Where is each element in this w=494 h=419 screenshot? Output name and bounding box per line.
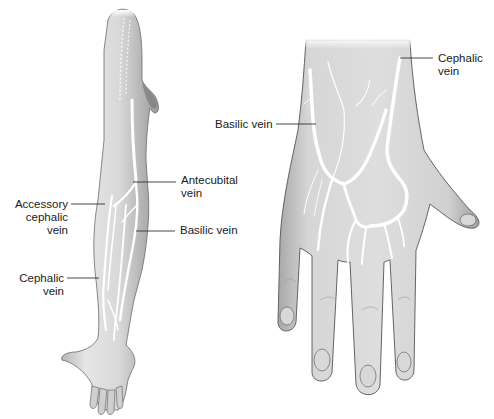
vein-diagram: Antecubital vein Accessory cephalic vein… xyxy=(0,0,494,419)
shoulder-fade xyxy=(100,10,150,70)
label-accessory-cephalic-vein: Accessory cephalic vein xyxy=(6,198,68,237)
diagram-illustration xyxy=(0,0,494,419)
label-antecubital-vein: Antecubital vein xyxy=(181,174,238,200)
label-cephalic-vein-hand: Cephalic vein xyxy=(438,52,483,78)
label-basilic-vein-arm: Basilic vein xyxy=(180,224,238,237)
label-cephalic-vein-arm: Cephalic vein xyxy=(10,272,64,298)
arm-illustration xyxy=(62,9,159,414)
label-basilic-vein-hand: Basilic vein xyxy=(215,118,273,131)
